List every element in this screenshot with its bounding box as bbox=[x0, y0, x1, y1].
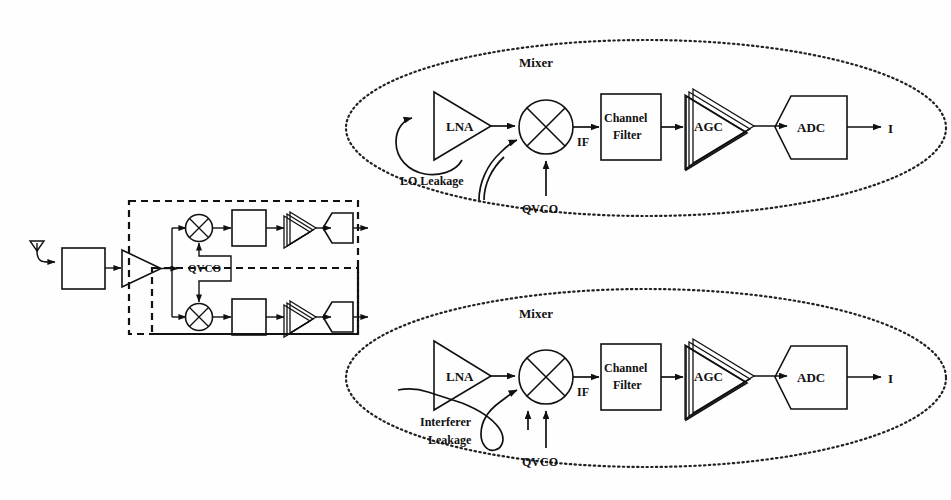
overview-agc-i bbox=[284, 212, 316, 248]
detail-top-filter-line1: Channel bbox=[604, 111, 648, 125]
detail-bottom-adc-label: ADC bbox=[797, 370, 825, 385]
detail-top-lna-label: LNA bbox=[446, 119, 474, 134]
detail-bottom-qvco-label: QVCO bbox=[522, 455, 558, 469]
detail-top-channel-filter bbox=[601, 94, 661, 160]
figure-canvas: QVCO LNA LO Leakage Mixer QVCO IF Channe… bbox=[0, 0, 951, 500]
detail-bottom-group: LNA Interferer Leakage Mixer QVCO IF Cha… bbox=[346, 289, 946, 469]
detail-top-if-label: IF bbox=[577, 135, 589, 149]
interferer-leakage-label-2: Leakage bbox=[428, 433, 472, 447]
detail-top-group: LNA LO Leakage Mixer QVCO IF Channel Fil… bbox=[346, 40, 946, 216]
detail-bottom-if-label: IF bbox=[577, 385, 589, 399]
detail-top-mixer bbox=[519, 100, 573, 154]
detail-bottom-mixer bbox=[519, 350, 573, 404]
overview-rf-filter-box bbox=[62, 248, 105, 289]
overview-qvco-label: QVCO bbox=[188, 262, 221, 274]
detail-bottom-channel-filter bbox=[601, 344, 661, 410]
detail-bottom-output-label: I bbox=[888, 371, 893, 386]
detail-top-qvco-label: QVCO bbox=[522, 202, 558, 216]
overview-agc-q bbox=[284, 301, 316, 337]
diagram-svg: QVCO LNA LO Leakage Mixer QVCO IF Channe… bbox=[0, 0, 951, 500]
overview-filter-q-box bbox=[232, 299, 266, 335]
detail-bottom-filter-line1: Channel bbox=[604, 361, 648, 375]
detail-top-adc-label: ADC bbox=[797, 120, 825, 135]
overview-mixer-i bbox=[186, 215, 213, 242]
detail-top-agc-label: AGC bbox=[694, 119, 723, 134]
detail-top-mixer-label: Mixer bbox=[519, 55, 553, 70]
lo-leakage-label: LO Leakage bbox=[400, 174, 464, 188]
overview-diagram: QVCO bbox=[30, 201, 368, 337]
detail-bottom-agc-label: AGC bbox=[694, 369, 723, 384]
detail-bottom-mixer-label: Mixer bbox=[519, 306, 553, 321]
detail-top-ellipse bbox=[346, 40, 946, 216]
interferer-leakage-label-1: Interferer bbox=[420, 415, 472, 429]
overview-mixer-q bbox=[186, 304, 213, 331]
detail-top-filter-line2: Filter bbox=[613, 128, 642, 142]
lo-leakage-branch-2 bbox=[484, 157, 504, 200]
detail-top-output-label: I bbox=[888, 121, 893, 136]
detail-bottom-lna-label: LNA bbox=[446, 369, 474, 384]
interferer-leakage-in bbox=[398, 389, 462, 403]
antenna-icon bbox=[30, 241, 55, 262]
detail-bottom-filter-line2: Filter bbox=[613, 378, 642, 392]
overview-filter-i-box bbox=[232, 210, 266, 246]
